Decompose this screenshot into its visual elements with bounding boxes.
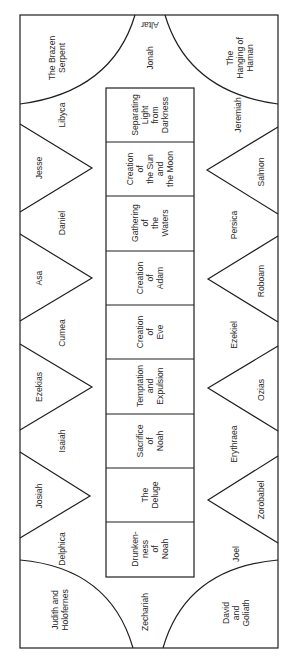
- svg-text:Darkness: Darkness: [160, 97, 170, 133]
- svg-text:Separating: Separating: [130, 94, 140, 136]
- svg-text:Creation: Creation: [135, 262, 145, 295]
- svg-text:the Moon: the Moon: [165, 151, 175, 187]
- spandrel-ezekias: [20, 344, 92, 430]
- svg-text:of: of: [135, 165, 145, 173]
- svg-text:the: the: [150, 217, 160, 229]
- seer-joel: Joel: [231, 546, 241, 562]
- seer-persica: Persica: [229, 210, 239, 239]
- spandrel-jesse: [20, 124, 92, 212]
- ancestor-ezekias: Ezekias: [34, 372, 44, 402]
- panel-creation-adam: Creation of Adam: [135, 262, 165, 295]
- prophet-jonah: Jonah: [145, 46, 155, 70]
- spandrel-josiah: [20, 452, 90, 538]
- ancestor-ozias: Ozias: [256, 379, 266, 401]
- ancestor-roboam: Roboam: [256, 265, 266, 297]
- svg-text:from: from: [150, 106, 160, 123]
- svg-text:the Sun: the Sun: [145, 154, 155, 184]
- spandrel-ozias: [208, 346, 278, 431]
- svg-text:Holofernes: Holofernes: [60, 589, 70, 631]
- svg-text:Expulsion: Expulsion: [155, 367, 165, 404]
- spandrel-zorobabel: [208, 456, 278, 543]
- svg-text:of: of: [150, 545, 160, 553]
- seer-libyca: Libyca: [57, 102, 67, 127]
- panel-temptation-expulsion: Temptation and Expulsion: [135, 365, 165, 407]
- svg-text:Deluge: Deluge: [150, 481, 160, 508]
- svg-text:Drunken-: Drunken-: [130, 531, 140, 566]
- svg-text:ness: ness: [140, 540, 150, 558]
- panel-separating-light: Separating Light from Darkness: [130, 94, 170, 136]
- svg-text:of: of: [145, 274, 155, 282]
- svg-text:Creation: Creation: [125, 153, 135, 186]
- svg-text:Temptation: Temptation: [135, 365, 145, 407]
- ancestor-asa: Asa: [34, 270, 44, 285]
- svg-text:The: The: [225, 50, 235, 65]
- prophet-zechariah: Zechariah: [140, 593, 150, 631]
- svg-text:Eve: Eve: [155, 324, 165, 339]
- svg-text:David: David: [221, 602, 231, 624]
- ancestor-zorobabel: Zorobabel: [256, 481, 266, 520]
- seer-erythraea: Erythraea: [229, 425, 239, 462]
- right-spandrels: [207, 127, 278, 543]
- svg-text:Gathering: Gathering: [130, 204, 140, 242]
- ceiling-diagram: Altar The Brazen Serpent The Hanging of …: [0, 0, 290, 671]
- corner-bottom-left-label: Judith and Holofernes: [50, 589, 70, 631]
- svg-text:of: of: [145, 328, 155, 336]
- panel-drunkenness-noah: Drunken- ness of Noah: [130, 531, 170, 566]
- svg-text:and: and: [145, 379, 155, 394]
- svg-text:Creation: Creation: [135, 316, 145, 349]
- ancestor-salmon: Salmon: [256, 157, 266, 186]
- corner-arc-bottom-left: [20, 560, 133, 648]
- seer-isaiah: Isaiah: [57, 429, 67, 452]
- svg-text:Light: Light: [140, 105, 150, 124]
- corner-top-right-label: The Hanging of Haman: [225, 37, 255, 79]
- panel-deluge: The Deluge: [140, 481, 160, 508]
- panel-gathering-waters: Gathering of the Waters: [130, 204, 170, 242]
- panel-creation-eve: Creation of Eve: [135, 316, 165, 349]
- left-spandrels: [20, 124, 92, 538]
- altar-label: Altar: [141, 20, 159, 30]
- panel-sacrifice-noah: Sacrifice of Noah: [135, 424, 165, 457]
- ancestor-jesse: Jesse: [34, 157, 44, 180]
- svg-text:of: of: [145, 437, 155, 445]
- spandrel-asa: [20, 234, 92, 321]
- svg-text:Noah: Noah: [160, 539, 170, 560]
- svg-text:Hanging of: Hanging of: [235, 37, 245, 79]
- svg-text:Serpent: Serpent: [57, 42, 67, 73]
- svg-text:The Brazen: The Brazen: [47, 36, 57, 81]
- spandrel-salmon: [207, 127, 278, 214]
- seer-ezekiel: Ezekiel: [229, 321, 239, 349]
- seer-cumea: Cumea: [57, 319, 67, 347]
- svg-text:Goliath: Goliath: [241, 599, 251, 626]
- ancestor-josiah: Josiah: [34, 483, 44, 508]
- panel-creation-sun-moon: Creation of the Sun and the Moon: [125, 151, 175, 187]
- svg-text:Adam: Adam: [155, 267, 165, 289]
- svg-text:Sacrifice: Sacrifice: [135, 424, 145, 457]
- svg-text:Haman: Haman: [245, 44, 255, 72]
- svg-text:Noah: Noah: [155, 431, 165, 452]
- svg-text:of: of: [140, 219, 150, 227]
- svg-text:The: The: [140, 487, 150, 502]
- corner-top-left-label: The Brazen Serpent: [47, 36, 67, 81]
- seer-jeremiah: Jeremiah: [233, 97, 243, 133]
- corner-arc-top-left: [20, 15, 135, 104]
- corner-arc-top-right: [165, 15, 278, 104]
- svg-text:and: and: [155, 162, 165, 177]
- svg-text:Judith and: Judith and: [50, 590, 60, 630]
- seer-daniel: Daniel: [57, 211, 67, 235]
- spandrel-roboam: [208, 236, 278, 322]
- svg-text:and: and: [231, 606, 241, 621]
- seer-delphica: Delphica: [57, 532, 67, 566]
- svg-text:Waters: Waters: [160, 210, 170, 237]
- corner-bottom-right-label: David and Goliath: [221, 599, 251, 626]
